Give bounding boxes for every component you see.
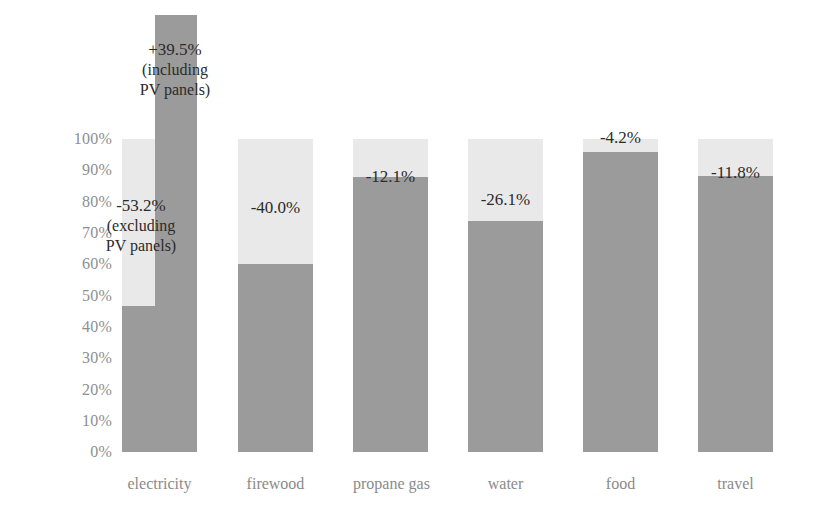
bar-food[interactable] — [583, 139, 658, 452]
value-label-electricity-including-pv: +39.5% (including PV panels) — [100, 40, 250, 100]
y-tick-30: 30% — [40, 350, 112, 366]
bar-travel[interactable] — [698, 139, 773, 452]
y-tick-20: 20% — [40, 382, 112, 398]
x-tick-food: food — [583, 475, 658, 493]
value-label-electricity-excluding-pv: -53.2% (excluding PV panels) — [66, 196, 216, 256]
bar-segment-remaining — [468, 221, 543, 452]
y-tick-60: 60% — [40, 256, 112, 272]
x-tick-electricity: electricity — [122, 475, 197, 493]
value-label-water: -26.1% — [468, 190, 543, 210]
bar-segment-remaining — [698, 176, 773, 452]
bar-electricity-excluding-pv[interactable] — [122, 139, 155, 452]
y-axis: 100% 90% 80% 70% 60% 50% 40% 30% 20% 10%… — [0, 0, 112, 515]
bar-segment-remaining — [122, 306, 155, 453]
y-tick-100: 100% — [40, 131, 112, 147]
value-label-food: -4.2% — [583, 128, 658, 148]
value-label-sub-1: (excluding — [66, 216, 216, 236]
plot-area: +39.5% (including PV panels) -53.2% (exc… — [112, 0, 820, 515]
bar-segment-remaining — [238, 264, 313, 452]
x-tick-firewood: firewood — [238, 475, 313, 493]
y-tick-90: 90% — [40, 162, 112, 178]
x-tick-water: water — [468, 475, 543, 493]
value-label-firewood: -40.0% — [238, 198, 313, 218]
x-tick-travel: travel — [698, 475, 773, 493]
stacked-bar-chart: 100% 90% 80% 70% 60% 50% 40% 30% 20% 10%… — [0, 0, 820, 515]
x-tick-propane-gas: propane gas — [353, 475, 428, 493]
bar-segment-remaining — [583, 152, 658, 452]
bar-segment-remaining — [353, 177, 428, 452]
value-label-sub-2: PV panels) — [66, 236, 216, 256]
y-tick-50: 50% — [40, 288, 112, 304]
bar-water[interactable] — [468, 139, 543, 452]
y-tick-10: 10% — [40, 413, 112, 429]
bar-firewood[interactable] — [238, 139, 313, 452]
y-tick-40: 40% — [40, 319, 112, 335]
value-label-propane-gas: -12.1% — [353, 167, 428, 187]
value-label-sub-1: (including — [100, 60, 250, 80]
value-label-travel: -11.8% — [698, 163, 773, 183]
value-label-main: -53.2% — [116, 196, 166, 215]
y-tick-0: 0% — [40, 444, 112, 460]
value-label-sub-2: PV panels) — [100, 80, 250, 100]
value-label-main: +39.5% — [148, 40, 202, 59]
